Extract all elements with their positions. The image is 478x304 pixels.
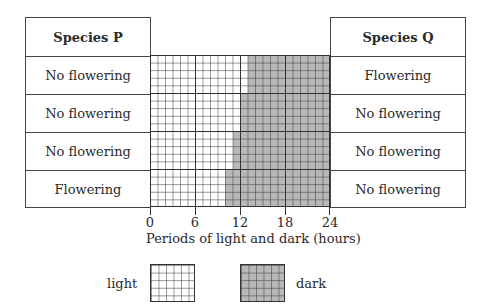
x-tick — [329, 207, 330, 215]
species-p-row-2: No flowering — [26, 94, 150, 132]
species-q-row-1: Flowering — [331, 56, 465, 94]
row-divider — [150, 55, 330, 56]
x-tick — [150, 207, 151, 215]
species-q-table: Species Q Flowering No flowering No flow… — [330, 17, 466, 208]
x-tick — [285, 207, 286, 215]
row-divider — [150, 93, 330, 94]
species-q-header: Species Q — [331, 18, 465, 56]
species-p-header: Species P — [26, 18, 150, 56]
species-p-row-4: Flowering — [26, 170, 150, 208]
species-q-row-2: No flowering — [331, 94, 465, 132]
x-tick — [195, 207, 196, 215]
x-tick-label: 0 — [146, 215, 154, 230]
species-p-row-3: No flowering — [26, 132, 150, 170]
species-q-row-4: No flowering — [331, 170, 465, 208]
x-tick-label: 24 — [322, 215, 339, 230]
legend-light-swatch — [150, 264, 195, 302]
species-p-row-1: No flowering — [26, 56, 150, 94]
x-tick — [240, 207, 241, 215]
x-tick-label: 18 — [277, 215, 294, 230]
legend-dark-swatch — [240, 264, 285, 302]
x-tick-label: 6 — [191, 215, 199, 230]
species-p-table: Species P No flowering No flowering No f… — [25, 17, 151, 208]
species-q-row-3: No flowering — [331, 132, 465, 170]
row-divider — [150, 131, 330, 132]
legend-light-label: light — [107, 276, 137, 291]
x-axis-label: Periods of light and dark (hours) — [146, 231, 361, 246]
x-tick-label: 12 — [232, 215, 249, 230]
legend-dark-label: dark — [296, 276, 326, 291]
row-divider — [150, 169, 330, 170]
light-dark-grid — [150, 55, 330, 207]
